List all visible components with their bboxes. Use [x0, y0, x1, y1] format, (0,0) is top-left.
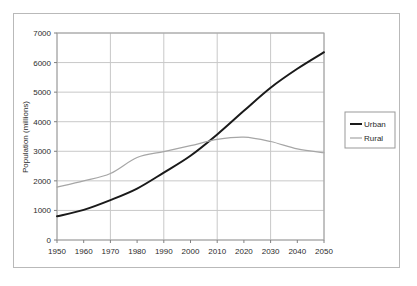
x-tick-label: 1950 [48, 247, 66, 256]
y-tick-label: 1000 [33, 206, 51, 215]
y-tick-label: 2000 [33, 177, 51, 186]
x-tick-label: 2040 [288, 247, 306, 256]
y-tick-label: 5000 [33, 88, 51, 97]
x-tick-label: 2030 [262, 247, 280, 256]
y-axis-tick-labels: 01000200030004000500060007000 [33, 29, 51, 245]
x-tick-label: 1990 [155, 247, 173, 256]
x-tick-label: 2000 [182, 247, 200, 256]
chart-figure: 01000200030004000500060007000 1950196019… [0, 0, 417, 286]
x-tick-label: 1960 [75, 247, 93, 256]
x-tick-label: 1970 [102, 247, 120, 256]
y-tick-label: 7000 [33, 29, 51, 38]
x-axis-tick-labels: 1950196019701980199020002010202020302040… [48, 247, 333, 256]
x-tick-label: 2050 [315, 247, 333, 256]
y-tick-label: 0 [47, 236, 52, 245]
legend-label-rural: Rural [364, 134, 383, 143]
line-chart: 01000200030004000500060007000 1950196019… [0, 0, 417, 286]
plot-area-background [57, 33, 324, 240]
x-tick-label: 1980 [128, 247, 146, 256]
y-tick-label: 6000 [33, 59, 51, 68]
chart-legend: UrbanRural [345, 112, 395, 148]
y-tick-label: 4000 [33, 118, 51, 127]
y-tick-label: 3000 [33, 147, 51, 156]
legend-label-urban: Urban [364, 120, 386, 129]
y-axis-title: Population (millions) [21, 101, 30, 173]
x-tick-label: 2020 [235, 247, 253, 256]
x-tick-label: 2010 [208, 247, 226, 256]
